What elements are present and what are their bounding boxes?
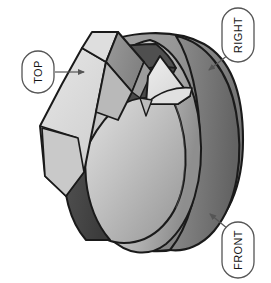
- diagram-canvas: TOP RIGHT FRONT: [0, 0, 271, 283]
- solid-illustration: TOP RIGHT FRONT: [0, 0, 271, 283]
- callout-front-label: FRONT: [232, 230, 244, 270]
- callout-right-label: RIGHT: [232, 17, 244, 53]
- callout-top-label: TOP: [32, 60, 44, 84]
